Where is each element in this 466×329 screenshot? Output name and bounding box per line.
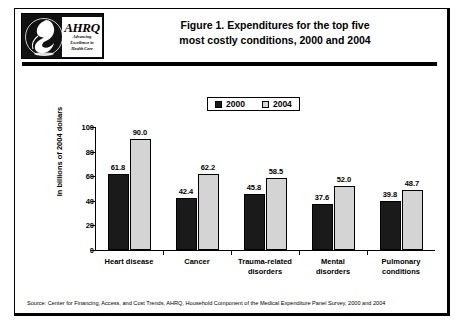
legend-swatch-2004 (262, 101, 269, 108)
x-axis-line (95, 250, 435, 251)
y-axis-title: In billions of 2004 dollars (55, 92, 64, 212)
category-label-line: Cancer (163, 257, 231, 267)
bar-value-label: 45.8 (240, 183, 269, 192)
ahrq-logo-wordmark: AHRQ Advancing Excellence in Health Care (62, 17, 102, 57)
bar-value-label: 62.2 (194, 163, 223, 172)
bar-2000-pulmonary-conditions (380, 201, 401, 250)
bar-2000-cancer (176, 198, 197, 250)
bar-2004-cancer (198, 174, 219, 251)
category-label-line: Mental (299, 257, 367, 267)
y-axis-line (95, 127, 96, 251)
figure-title-line1: Figure 1. Expenditures for the top five (115, 18, 435, 33)
category-label-line: conditions (367, 267, 435, 277)
legend-swatch-2000 (215, 101, 222, 108)
x-axis-tick (299, 251, 300, 255)
ahrq-tagline-line3: Health Care (62, 46, 102, 52)
bar-value-label: 48.7 (398, 179, 427, 188)
x-axis-tick (163, 251, 164, 255)
y-axis-tick-label: 60 (70, 172, 94, 181)
y-axis-tick-label: 0 (70, 246, 94, 255)
y-axis-tick-label: 80 (70, 148, 94, 157)
source-note: Source: Center for Financing, Access, an… (27, 300, 385, 306)
x-axis-category-label: Trauma-relateddisorders (231, 257, 299, 277)
bar-2000-mental-disorders (312, 204, 333, 250)
figure-frame: AHRQ Advancing Excellence in Health Care… (14, 8, 450, 316)
bird-emblem-icon (24, 16, 64, 58)
y-axis-tick-label: 20 (70, 221, 94, 230)
bar-2000-trauma-related-disorders (244, 194, 265, 250)
category-label-line: Pulmonary (367, 257, 435, 267)
x-axis-category-label: Pulmonaryconditions (367, 257, 435, 277)
legend-item-2004: 2004 (262, 99, 292, 109)
y-axis-tick-label: 100 (70, 123, 94, 132)
category-label-line: disorders (231, 267, 299, 277)
category-label-line: disorders (299, 267, 367, 277)
figure-title: Figure 1. Expenditures for the top five … (115, 18, 435, 48)
x-axis-category-label: Cancer (163, 257, 231, 267)
bar-value-label: 58.5 (262, 167, 291, 176)
x-axis-category-label: Mentaldisorders (299, 257, 367, 277)
bar-2000-heart-disease (108, 174, 129, 250)
chart-axes: 02040608010061.890.0Heart disease42.462.… (95, 127, 435, 251)
y-axis-tick-label: 40 (70, 197, 94, 206)
chart-plot-region: In billions of 2004 dollars 020406080100… (31, 121, 441, 276)
x-axis-category-label: Heart disease (95, 257, 163, 267)
x-axis-tick (231, 251, 232, 255)
legend-label-2004: 2004 (273, 99, 292, 109)
category-label-line: Heart disease (95, 257, 163, 267)
bar-2004-mental-disorders (334, 186, 355, 250)
bar-value-label: 90.0 (126, 128, 155, 137)
bar-2004-trauma-related-disorders (266, 178, 287, 250)
bar-value-label: 42.4 (172, 187, 201, 196)
ahrq-acronym: AHRQ (62, 21, 102, 34)
legend-label-2000: 2000 (226, 99, 245, 109)
bar-value-label: 39.8 (376, 190, 405, 199)
bar-value-label: 52.0 (330, 175, 359, 184)
legend-item-2000: 2000 (215, 99, 245, 109)
bar-value-label: 37.6 (308, 193, 337, 202)
ahrq-logo: AHRQ Advancing Excellence in Health Care (21, 13, 104, 59)
header-divider (22, 62, 437, 66)
chart-legend: 2000 2004 (207, 97, 300, 111)
bar-value-label: 61.8 (104, 163, 133, 172)
x-axis-tick (367, 251, 368, 255)
category-label-line: Trauma-related (231, 257, 299, 267)
figure-title-line2: most costly conditions, 2000 and 2004 (115, 33, 435, 48)
bar-2004-heart-disease (130, 139, 151, 250)
bar-2004-pulmonary-conditions (402, 190, 423, 250)
figure-header: AHRQ Advancing Excellence in Health Care… (15, 9, 447, 62)
